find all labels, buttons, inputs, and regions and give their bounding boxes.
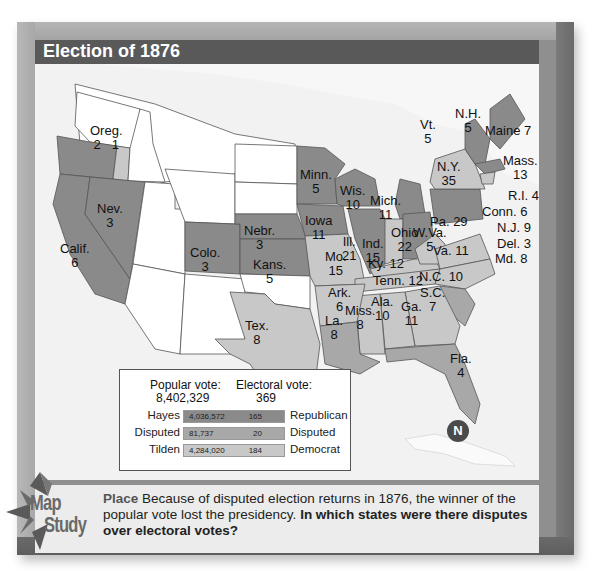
state-label-nc: N.C. 10 bbox=[419, 270, 463, 284]
state-label-maine: Maine 7 bbox=[485, 124, 531, 138]
title-bar: Election of 1876 bbox=[35, 40, 539, 64]
electoral-vote-total: 369 bbox=[256, 391, 276, 405]
state-label-mich: Mich.11 bbox=[370, 194, 401, 222]
state-label-md: Md. 8 bbox=[495, 252, 528, 266]
state-label-wis: Wis.10 bbox=[340, 184, 365, 212]
state-label-nebr: Nebr.3 bbox=[244, 224, 275, 252]
state-label-tex: Tex.8 bbox=[245, 319, 269, 347]
state-label-minn: Minn.5 bbox=[300, 168, 332, 196]
state-label-va: Va. 11 bbox=[433, 244, 469, 258]
frame-bevel-top bbox=[17, 22, 574, 40]
state-label-nev: Nev.3 bbox=[97, 202, 123, 230]
disputed-swatch: 81,737 20 bbox=[183, 427, 285, 440]
compass-north-icon: N bbox=[447, 420, 469, 442]
election-map: Oreg.2 1 Calif.6 Nev.3 Colo.3 Nebr.3 Kan… bbox=[35, 64, 539, 480]
state-label-oreg: Oreg.2 1 bbox=[90, 124, 123, 152]
state-label-nj: N.J. 9 bbox=[497, 221, 531, 235]
legend-row-tilden: Tilden 4,284,020 184 Democrat bbox=[120, 443, 350, 457]
caption-theme: Place bbox=[103, 491, 138, 506]
state-label-kans: Kans.5 bbox=[253, 258, 286, 286]
state-label-ky: Ky. 12 bbox=[368, 257, 404, 271]
badge-study-text: Study bbox=[44, 512, 86, 538]
state-label-tenn: Tenn. 12 bbox=[373, 274, 423, 288]
frame-bevel-right bbox=[556, 22, 574, 555]
state-label-conn: Conn. 6 bbox=[482, 205, 528, 219]
state-label-iowa: Iowa11 bbox=[305, 214, 332, 242]
legend-row-hayes: Hayes 4,036,572 165 Republican bbox=[120, 409, 350, 423]
popular-vote-total: 8,402,329 bbox=[156, 391, 209, 405]
map-study-caption: Place Because of disputed election retur… bbox=[35, 485, 539, 553]
state-label-del: Del. 3 bbox=[497, 237, 531, 251]
state-label-ga: Ga.11 bbox=[401, 300, 422, 328]
state-label-ark: Ark.6 bbox=[328, 286, 351, 314]
electoral-vote-header: Electoral vote: bbox=[236, 378, 312, 392]
state-label-ri: R.I. 4 bbox=[508, 189, 539, 203]
state-label-sc: S.C.7 bbox=[420, 286, 445, 314]
republican-swatch: 4,036,572 165 bbox=[183, 410, 285, 423]
caption-text: Place Because of disputed election retur… bbox=[103, 491, 533, 539]
state-label-fla: Fla.4 bbox=[450, 352, 472, 380]
state-label-colo: Colo.3 bbox=[190, 246, 220, 274]
map-study-badge: Map Study bbox=[0, 462, 100, 562]
vote-legend: Popular vote: 8,402,329 Electoral vote: … bbox=[119, 369, 351, 471]
popular-vote-header: Popular vote: bbox=[150, 378, 221, 392]
state-label-ny: N.Y.35 bbox=[437, 160, 461, 188]
state-label-mo: Mo.15 bbox=[325, 250, 347, 278]
legend-row-disputed: Disputed 81,737 20 Disputed bbox=[120, 426, 350, 440]
state-label-nh: N.H.5 bbox=[455, 107, 481, 135]
map-title: Election of 1876 bbox=[43, 41, 180, 62]
democrat-swatch: 4,284,020 184 bbox=[183, 444, 285, 457]
state-label-mass: Mass.13 bbox=[503, 154, 538, 182]
state-label-la: La.8 bbox=[325, 314, 343, 342]
state-label-calif: Calif.6 bbox=[60, 242, 90, 270]
state-label-vt: Vt.5 bbox=[420, 118, 436, 146]
